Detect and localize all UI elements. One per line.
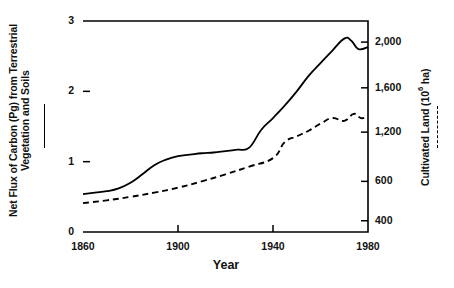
plot-area [0,0,454,288]
data-curves [83,38,368,204]
series-cultivated-land [83,114,368,203]
chart-figure: Net Flux of Carbon (Pg) from Terrestrial… [0,0,454,288]
axis-ticks [83,42,368,232]
series-carbon-flux [83,38,368,194]
axis-frame [83,21,368,232]
